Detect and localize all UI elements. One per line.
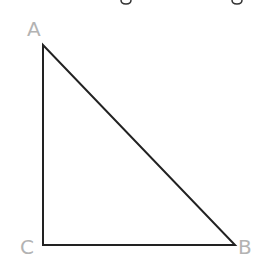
vertex-label-a: A	[27, 17, 41, 41]
cropped-heading-text	[121, 0, 242, 4]
vertex-label-b: B	[238, 235, 252, 259]
descender-g-1	[121, 0, 131, 4]
triangle-svg: A C B	[0, 0, 268, 270]
descender-g-2	[232, 0, 242, 4]
vertex-label-c: C	[20, 235, 34, 259]
triangle-abc	[43, 45, 235, 245]
triangle-diagram: A C B	[0, 0, 268, 270]
